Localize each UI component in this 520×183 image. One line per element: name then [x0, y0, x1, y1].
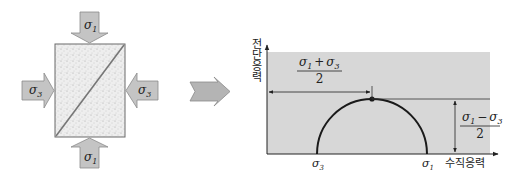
svg-text:2: 2: [476, 127, 484, 141]
x-tick-sigma1: σ1: [422, 157, 434, 172]
right-sigma3-arrow: σ3: [126, 73, 158, 108]
x-tick-sigma3: σ3: [312, 157, 325, 172]
svg-text:전단응력: 전단응력: [249, 38, 262, 82]
svg-text:σ1−σ3: σ1−σ3: [462, 110, 503, 126]
mohr-diagram: σ1 σ1 σ3 σ3: [0, 0, 520, 183]
top-sigma1-arrow: σ1: [71, 12, 108, 43]
transition-arrow-icon: [190, 77, 230, 106]
bottom-sigma1-arrow: σ1: [71, 138, 108, 168]
x-axis-label: 수직응력: [445, 157, 485, 170]
left-sigma3-arrow: σ3: [22, 73, 54, 108]
y-axis-label: 전단응력: [249, 38, 262, 82]
svg-text:2: 2: [316, 72, 324, 86]
mohr-circle-plot: 전단응력 σ1+σ3 2 σ1−σ3 2: [249, 38, 503, 172]
specimen-panel: σ1 σ1 σ3 σ3: [22, 12, 158, 168]
svg-text:σ1+σ3: σ1+σ3: [299, 55, 340, 71]
